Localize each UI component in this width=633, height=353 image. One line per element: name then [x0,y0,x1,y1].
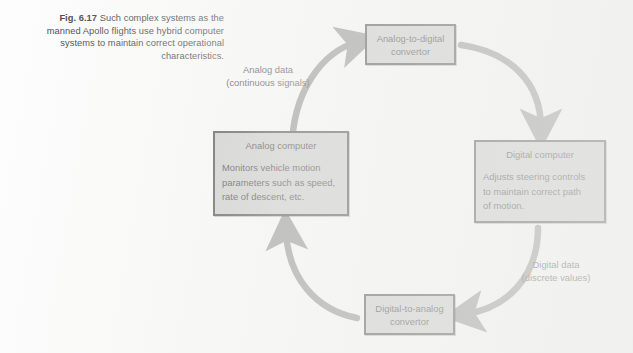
node-digital-to-analog-convertor-title: Digital-to-analog convertor [375,302,443,328]
arrow-dac-to-analog [286,231,357,318]
node-analog-computer-body: Monitors vehicle motion parameters such … [222,161,340,205]
edge-label-digital-data: Digital data (discrete values) [497,258,615,284]
figure-page: Fig. 6.17 Such complex systems as the ma… [0,0,633,353]
figure-number: Fig. 6.17 [59,13,97,23]
node-digital-to-analog-convertor[interactable]: Digital-to-analog convertor [364,294,455,335]
node-digital-computer-body: Adjusts steering controls to maintain co… [483,170,597,214]
node-analog-to-digital-convertor-title: Analog-to-digital convertor [377,32,445,58]
node-analog-to-digital-convertor[interactable]: Analog-to-digital convertor [365,24,456,65]
edge-label-analog-data: Analog data (continuous signals) [208,63,328,89]
node-analog-computer-title: Analog computer [222,139,340,152]
arrow-adc-to-digital [461,45,541,128]
node-digital-computer-title: Digital computer [483,148,597,161]
node-analog-computer[interactable]: Analog computer Monitors vehicle motion … [213,131,349,216]
figure-caption: Fig. 6.17 Such complex systems as the ma… [24,12,224,62]
node-digital-computer[interactable]: Digital computer Adjusts steering contro… [474,140,606,223]
